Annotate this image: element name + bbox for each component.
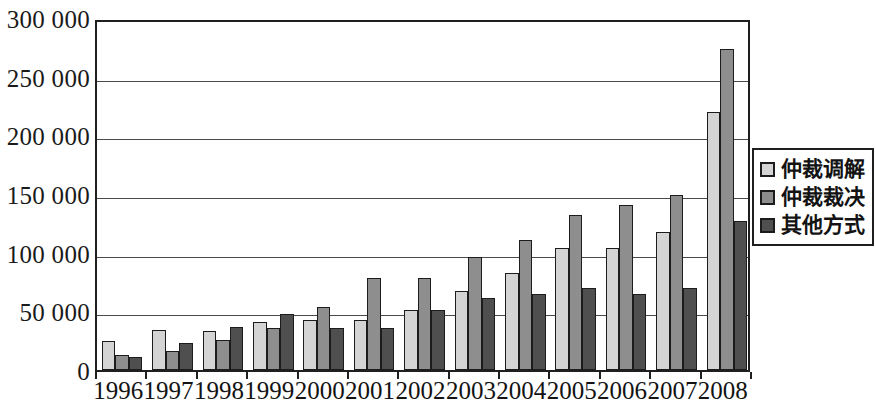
x-axis-tick (548, 372, 550, 379)
bar-group (500, 22, 550, 370)
x-axis-tick (95, 372, 97, 379)
y-tick-label: 100 000 (0, 242, 90, 267)
medium-gray-swatch (760, 190, 775, 205)
bar-group (450, 22, 500, 370)
x-tick-label: 1998 (194, 378, 244, 404)
bar-group (702, 22, 752, 370)
bar (720, 49, 734, 370)
bar (633, 294, 647, 370)
bar (179, 343, 193, 370)
bar (267, 328, 281, 370)
x-axis-tick (145, 372, 147, 379)
bar (683, 288, 697, 370)
bar (569, 215, 583, 370)
bar (280, 314, 294, 370)
bar (102, 341, 116, 370)
bar (482, 298, 496, 370)
bar (555, 248, 569, 370)
x-tick-label: 2003 (446, 378, 496, 404)
x-axis-tick (397, 372, 399, 379)
legend-item[interactable]: 其他方式 (760, 211, 868, 239)
x-tick-label: 1997 (143, 378, 193, 404)
bar (381, 328, 395, 370)
bar (317, 307, 331, 370)
legend-item[interactable]: 仲裁裁决 (760, 183, 868, 211)
x-tick-label: 2002 (395, 378, 445, 404)
legend-item[interactable]: 仲裁调解 (760, 155, 868, 183)
bar (519, 240, 533, 370)
x-tick-label: 2007 (647, 378, 697, 404)
bar (216, 340, 230, 371)
light-gray-swatch (760, 162, 775, 177)
x-tick-label: 2001 (345, 378, 395, 404)
bar (734, 221, 748, 370)
bar-group (601, 22, 651, 370)
x-tick-label: 2005 (546, 378, 596, 404)
bar (367, 278, 381, 370)
x-axis-tick (448, 372, 450, 379)
bar (582, 288, 596, 370)
legend-label: 仲裁调解 (781, 157, 865, 181)
x-axis: 1996199719981999200020012002200320042005… (0, 378, 876, 404)
bar (230, 327, 244, 370)
bar-group (248, 22, 298, 370)
bar (468, 257, 482, 370)
bar-group (198, 22, 248, 370)
bar (404, 310, 418, 370)
bar (532, 294, 546, 370)
bar (253, 322, 267, 370)
x-axis-tick (246, 372, 248, 379)
legend-label: 仲裁裁决 (781, 185, 865, 209)
bar (619, 205, 633, 370)
x-tick-label: 2000 (295, 378, 345, 404)
bar (166, 351, 180, 370)
y-tick-label: 200 000 (0, 124, 90, 149)
bar-group (550, 22, 600, 370)
bar-group (97, 22, 147, 370)
plot-area (95, 20, 750, 372)
x-axis-tick (498, 372, 500, 379)
y-tick-label: 150 000 (0, 183, 90, 208)
legend-label: 其他方式 (781, 213, 865, 237)
bar (670, 195, 684, 370)
bar (418, 278, 432, 370)
bar (303, 320, 317, 370)
bar (129, 357, 143, 370)
bar-chart: 300 000250 000200 000150 000100 00050 00… (0, 0, 876, 404)
bar-group (349, 22, 399, 370)
x-tick-label: 2008 (698, 378, 748, 404)
bar-group (399, 22, 449, 370)
x-axis-tick (649, 372, 651, 379)
bar (152, 330, 166, 370)
x-tick-label: 1999 (244, 378, 294, 404)
bar (354, 320, 368, 370)
x-axis-tick (297, 372, 299, 379)
x-tick-label: 1996 (93, 378, 143, 404)
y-tick-label: 50 000 (0, 300, 90, 325)
x-axis-tick (196, 372, 198, 379)
bar (707, 112, 721, 370)
legend: 仲裁调解仲裁裁决其他方式 (752, 148, 874, 246)
bar-group (147, 22, 197, 370)
dark-gray-swatch (760, 218, 775, 233)
bar (455, 291, 469, 370)
bar-group (651, 22, 701, 370)
y-axis: 300 000250 000200 000150 000100 00050 00… (0, 0, 90, 404)
bar (115, 355, 129, 370)
bar (505, 273, 519, 370)
x-axis-tick (750, 372, 752, 379)
bar-group (299, 22, 349, 370)
x-tick-label: 2006 (597, 378, 647, 404)
x-axis-tick (599, 372, 601, 379)
x-tick-label: 2004 (496, 378, 546, 404)
bar (606, 248, 620, 370)
bar (203, 331, 217, 370)
bar (656, 232, 670, 370)
bar (431, 310, 445, 370)
y-tick-label: 250 000 (0, 66, 90, 91)
x-axis-tick (347, 372, 349, 379)
bar (330, 328, 344, 370)
x-axis-tick (700, 372, 702, 379)
bars-layer (97, 22, 748, 370)
y-tick-label: 300 000 (0, 7, 90, 32)
